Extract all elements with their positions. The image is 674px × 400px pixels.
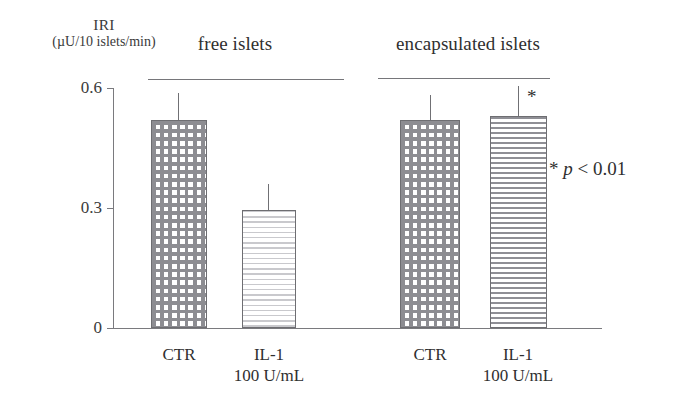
bar-chart-figure: IRI (µU/10 islets/min) free islets encap… bbox=[0, 0, 674, 400]
x-label-free-il1-name: IL-1 bbox=[254, 345, 284, 364]
bar-encapsulated-il1 bbox=[490, 116, 547, 328]
y-tick-mark-0.3 bbox=[107, 208, 114, 209]
error-bar-free-ctr bbox=[178, 93, 179, 120]
bar-free-il1 bbox=[242, 210, 296, 328]
error-bar-encapsulated-il1 bbox=[518, 86, 519, 116]
significance-note-rest: < 0.01 bbox=[578, 158, 627, 179]
x-label-encapsulated-il1-sub: 100 U/mL bbox=[453, 365, 583, 386]
y-tick-mark-0.6 bbox=[107, 88, 114, 89]
x-label-free-ctr-name: CTR bbox=[162, 345, 195, 364]
group-header-free-islets: free islets bbox=[140, 33, 330, 55]
x-label-encapsulated-ctr-name: CTR bbox=[413, 345, 446, 364]
group-rule-encapsulated-islets bbox=[378, 78, 550, 79]
x-label-encapsulated-il1-name: IL-1 bbox=[503, 345, 533, 364]
x-label-encapsulated-il1: IL-1 100 U/mL bbox=[453, 344, 583, 387]
y-tick-label-0.3: 0.3 bbox=[56, 198, 102, 218]
x-label-free-il1-sub: 100 U/mL bbox=[204, 365, 334, 386]
bar-encapsulated-ctr bbox=[400, 120, 460, 328]
y-tick-label-0.6: 0.6 bbox=[56, 78, 102, 98]
error-bar-encapsulated-ctr bbox=[430, 95, 431, 120]
significance-star-encapsulated-il1: * bbox=[527, 87, 537, 106]
group-rule-free-islets bbox=[148, 79, 344, 80]
bar-free-ctr bbox=[151, 120, 207, 328]
group-header-encapsulated-islets: encapsulated islets bbox=[368, 33, 568, 55]
significance-note: * p < 0.01 bbox=[549, 158, 626, 180]
significance-note-p: p bbox=[563, 158, 573, 179]
error-bar-free-il1 bbox=[268, 184, 269, 210]
y-tick-mark-0 bbox=[107, 328, 114, 329]
y-tick-label-0: 0 bbox=[56, 318, 102, 338]
y-axis-title-line1: IRI bbox=[24, 16, 184, 34]
x-axis-line bbox=[113, 328, 602, 329]
x-label-free-il1: IL-1 100 U/mL bbox=[204, 344, 334, 387]
significance-note-marker: * bbox=[549, 158, 559, 179]
